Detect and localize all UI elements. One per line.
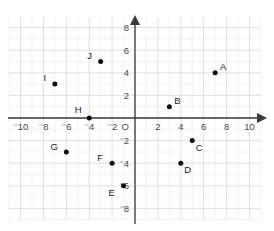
- x-tick-label: ⁻10: [13, 121, 29, 132]
- point-marker: [178, 161, 183, 166]
- y-tick-label: ⁻4: [119, 158, 129, 169]
- point-label: F: [97, 152, 103, 163]
- point-label: G: [51, 141, 58, 152]
- y-tick-label: ⁻8: [119, 203, 129, 214]
- point-marker: [213, 70, 218, 75]
- origin-label: O: [122, 121, 129, 132]
- x-tick-label: ⁻4: [84, 121, 94, 132]
- plotted-point-b: B: [167, 95, 181, 110]
- x-tick-label: ⁻8: [38, 121, 48, 132]
- coordinate-plane-svg: ⁻10⁻8⁻6⁻4⁻2246810 8642⁻2⁻4⁻6⁻8 O ABCDEFG…: [0, 0, 274, 231]
- point-marker: [98, 59, 103, 64]
- y-axis-arrowhead: [130, 15, 140, 25]
- x-tick-label: 10: [244, 121, 255, 132]
- point-label: J: [87, 50, 92, 61]
- x-axis-arrowhead: [257, 113, 267, 123]
- x-tick-label: ⁻6: [61, 121, 71, 132]
- point-label: D: [184, 164, 191, 175]
- x-tick-label: ⁻2: [107, 121, 117, 132]
- plotted-point-i: I: [44, 72, 58, 87]
- origin-label-text: O: [122, 121, 129, 132]
- point-label: H: [75, 104, 82, 115]
- y-tick-label: 4: [124, 67, 129, 78]
- coordinate-plane-figure: ⁻10⁻8⁻6⁻4⁻2246810 8642⁻2⁻4⁻6⁻8 O ABCDEFG…: [0, 0, 274, 231]
- y-tick-label: 8: [124, 22, 129, 33]
- x-tick-label: 4: [178, 121, 183, 132]
- y-tick-label: 2: [124, 90, 129, 101]
- point-marker: [121, 183, 126, 188]
- point-label: B: [174, 95, 180, 106]
- point-marker: [64, 149, 69, 154]
- x-tick-label: 8: [224, 121, 229, 132]
- point-marker: [167, 104, 172, 109]
- y-tick-label: 6: [124, 45, 129, 56]
- x-tick-label: 2: [155, 121, 160, 132]
- axes: [8, 15, 267, 224]
- x-axis-tick-labels: ⁻10⁻8⁻6⁻4⁻2246810: [13, 121, 255, 132]
- y-tick-label: ⁻2: [119, 135, 129, 146]
- point-marker: [110, 161, 115, 166]
- point-marker: [52, 82, 57, 87]
- point-marker: [87, 116, 92, 121]
- point-label: C: [196, 142, 203, 153]
- point-label: I: [44, 72, 47, 83]
- point-label: A: [220, 61, 227, 72]
- point-label: E: [108, 187, 114, 198]
- point-marker: [190, 138, 195, 143]
- x-tick-label: 6: [201, 121, 206, 132]
